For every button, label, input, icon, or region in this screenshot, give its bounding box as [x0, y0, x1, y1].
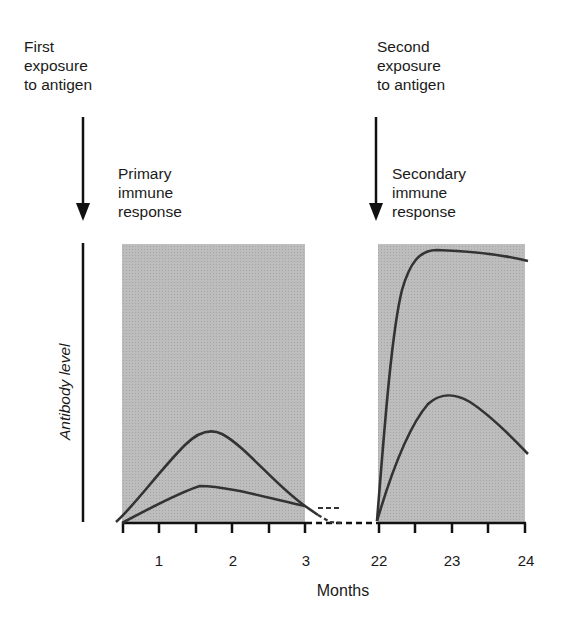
x-tick-label: 23: [444, 552, 461, 569]
y-axis-label: Antibody level: [56, 343, 74, 440]
antibody-chart: [0, 0, 561, 627]
x-tick-label: 24: [518, 552, 535, 569]
secondary-response-region: [378, 244, 525, 523]
first-exposure-label: First exposure to antigen: [24, 37, 92, 94]
second-exposure-label: Second exposure to antigen: [377, 37, 445, 94]
x-axis-label: Months: [317, 582, 369, 600]
second-exposure-arrow-icon: [369, 117, 383, 221]
secondary-response-label: Secondary immune response: [392, 164, 466, 221]
first-exposure-arrow-icon: [76, 117, 90, 221]
x-tick-label: 3: [302, 552, 310, 569]
x-tick-label: 1: [155, 552, 163, 569]
primary-response-label: Primary immune response: [118, 164, 182, 221]
x-axis-primary: [122, 523, 306, 533]
x-tick-label: 2: [229, 552, 237, 569]
x-axis-secondary: [378, 523, 526, 533]
x-tick-label: 22: [371, 552, 388, 569]
